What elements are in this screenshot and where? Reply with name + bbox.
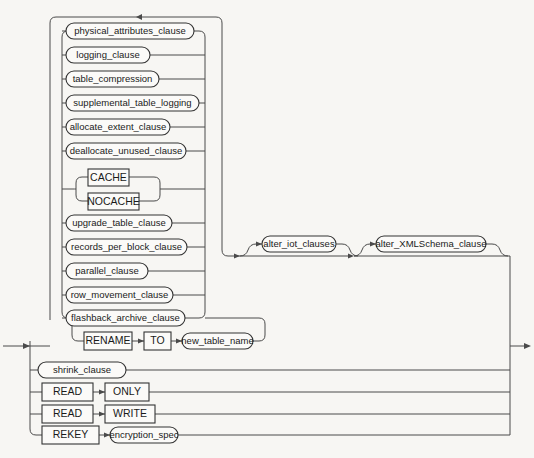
optional-tail-rails (222, 242, 531, 350)
node-write-keyword[interactable]: WRITE (105, 405, 155, 423)
node-nocache[interactable]: NOCACHE (87, 193, 140, 210)
node-read-keyword-write[interactable]: READ (42, 405, 93, 423)
railroad-diagram: physical_attributes_clause logging_claus… (0, 0, 534, 458)
node-flashback-archive-clause[interactable]: flashback_archive_clause (66, 310, 185, 326)
node-allocate-extent-clause[interactable]: allocate_extent_clause (66, 119, 170, 135)
node-read-keyword-only[interactable]: READ (42, 383, 93, 401)
node-row-movement-clause[interactable]: row_movement_clause (66, 287, 173, 303)
node-logging-clause[interactable]: logging_clause (66, 47, 150, 63)
node-supplemental-table-logging[interactable]: supplemental_table_logging (66, 95, 199, 111)
right-exit-arrow (524, 343, 531, 349)
node-upgrade-table-clause[interactable]: upgrade_table_clause (66, 215, 172, 231)
node-shrink-clause[interactable]: shrink_clause (38, 362, 126, 378)
node-table-compression[interactable]: table_compression (66, 71, 159, 87)
node-alter-iot-clauses[interactable]: alter_iot_clauses (262, 236, 336, 252)
left-entry-arrow (23, 343, 30, 349)
repeat-loop-arrow (136, 14, 142, 20)
node-deallocate-unused-clause[interactable]: deallocate_unused_clause (66, 143, 186, 159)
node-parallel-clause[interactable]: parallel_clause (66, 263, 148, 279)
node-alter-xmlschema-clause[interactable]: alter_XMLSchema_clause (376, 236, 487, 252)
railroad-diagram-canvas: physical_attributes_clause logging_claus… (0, 0, 534, 458)
node-physical-attributes-clause[interactable]: physical_attributes_clause (66, 23, 194, 39)
node-records-per-block-clause[interactable]: records_per_block_clause (66, 239, 187, 255)
node-rename-keyword[interactable]: RENAME (84, 332, 132, 350)
node-rekey-keyword[interactable]: REKEY (42, 426, 99, 444)
node-encryption-spec[interactable]: encryption_spec (109, 427, 178, 443)
node-cache[interactable]: CACHE (88, 169, 129, 186)
node-only-keyword[interactable]: ONLY (105, 383, 149, 401)
node-new-table-name[interactable]: new_table_name (181, 333, 253, 349)
node-to-keyword[interactable]: TO (144, 332, 171, 350)
